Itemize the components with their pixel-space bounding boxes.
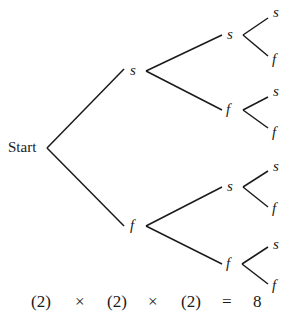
- times-sign-1: ×: [75, 293, 85, 311]
- leaf-sff: f: [272, 125, 276, 140]
- node-s-level1: s: [130, 63, 136, 78]
- leaf-sfs: s: [273, 84, 279, 99]
- factor-1: (2): [31, 293, 51, 311]
- leaf-fsf: f: [272, 201, 276, 216]
- factor-2: (2): [107, 293, 127, 311]
- tree-lines: [0, 0, 289, 327]
- node-ss-level2: s: [227, 27, 233, 42]
- root-start-label: Start: [8, 140, 36, 155]
- leaf-ssf: f: [272, 52, 276, 67]
- equals-sign: =: [222, 293, 232, 311]
- result-value: 8: [253, 293, 262, 311]
- node-fs-level2: s: [227, 179, 233, 194]
- factor-3: (2): [181, 293, 201, 311]
- node-ff-level2: f: [226, 256, 230, 271]
- node-f-level1: f: [130, 218, 134, 233]
- times-sign-2: ×: [148, 293, 158, 311]
- leaf-ffs: s: [273, 237, 279, 252]
- leaf-sss: s: [273, 5, 279, 20]
- node-sf-level2: f: [226, 102, 230, 117]
- leaf-fff: f: [272, 278, 276, 293]
- leaf-fss: s: [273, 159, 279, 174]
